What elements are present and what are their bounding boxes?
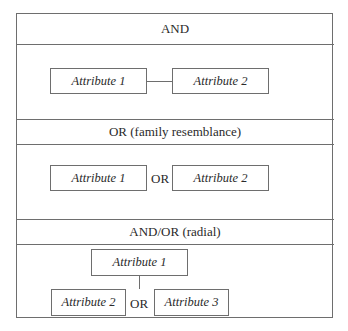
section-or-top-divider xyxy=(16,119,334,120)
or-operator-label: OR xyxy=(151,171,169,187)
radial-attribute-3-box: Attribute 3 xyxy=(154,289,229,316)
section-or-title: OR (family resemblance) xyxy=(17,124,333,140)
or-attribute-2-box: Attribute 2 xyxy=(172,165,269,191)
and-attribute-1-box: Attribute 1 xyxy=(50,68,147,94)
and-attribute-2-box: Attribute 2 xyxy=(172,68,269,94)
and-connector-line xyxy=(146,81,172,82)
radial-or-operator-label: OR xyxy=(130,296,148,312)
radial-attribute-1-box: Attribute 1 xyxy=(91,249,188,276)
section-and-title: AND xyxy=(17,21,333,37)
radial-attribute-2-box: Attribute 2 xyxy=(51,289,126,316)
section-radial-top-divider xyxy=(16,219,334,220)
section-radial-header-divider xyxy=(16,244,334,245)
section-and-header-divider xyxy=(16,44,334,45)
or-attribute-1-box: Attribute 1 xyxy=(50,165,147,191)
section-or-header-divider xyxy=(16,144,334,145)
section-radial-title: AND/OR (radial) xyxy=(17,224,333,240)
radial-connector-line xyxy=(139,276,140,289)
